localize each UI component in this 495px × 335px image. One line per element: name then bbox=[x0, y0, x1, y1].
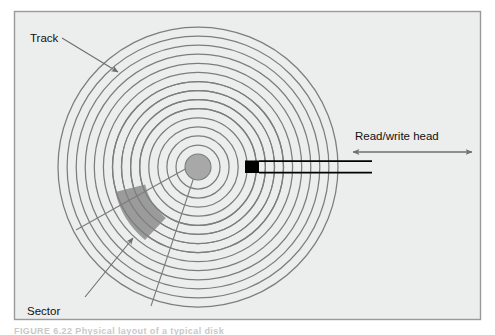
spindle-hub bbox=[185, 154, 211, 180]
head-block-icon bbox=[245, 161, 259, 174]
sector-label: Sector bbox=[27, 305, 60, 317]
figure-container: Track Sector Read/write head FIGURE 6.22… bbox=[0, 0, 495, 335]
disk-layout-diagram: Track Sector Read/write head bbox=[0, 0, 495, 335]
figure-caption: FIGURE 6.22 Physical layout of a typical… bbox=[14, 326, 224, 335]
track-label: Track bbox=[30, 32, 59, 44]
read-write-head-label: Read/write head bbox=[355, 130, 439, 142]
